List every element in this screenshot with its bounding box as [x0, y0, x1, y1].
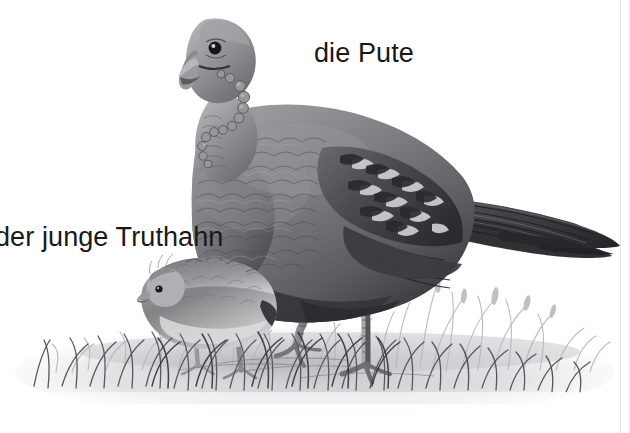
label-young-turkey: der junge Truthahn — [0, 224, 223, 251]
label-adult-turkey: die Pute — [314, 40, 414, 67]
illustration-page: die Pute der junge Truthahn — [0, 0, 630, 433]
grass-seedheads — [432, 273, 557, 319]
plate-border-inner — [620, 0, 621, 433]
turkey-head — [179, 18, 256, 103]
